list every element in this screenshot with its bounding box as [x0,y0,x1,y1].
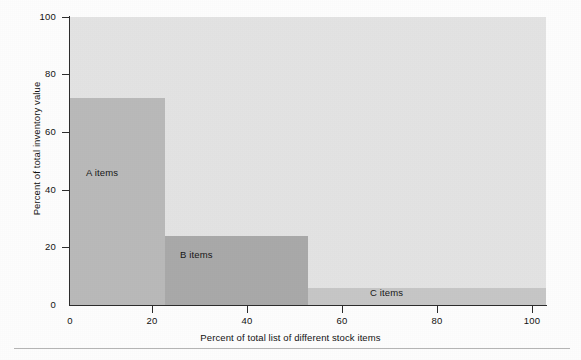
y-tick-40 [62,190,70,191]
bar-b-items [165,236,308,305]
bar-label-a-items: A items [86,167,118,178]
x-tick-20 [152,306,153,313]
y-tick-20 [62,247,70,248]
x-tick-100 [532,306,533,313]
bar-label-b-items: B items [180,249,213,260]
y-tick-100 [62,17,70,18]
x-ticklabel-80: 80 [422,315,452,326]
y-axis-title: Percent of total inventory value [31,39,42,259]
y-tick-80 [62,74,70,75]
x-ticklabel-40: 40 [232,315,262,326]
abc-inventory-chart-figure: A items B items C items 100 80 60 40 20 … [0,0,581,360]
x-ticklabel-60: 60 [327,315,357,326]
page-separator-rule [14,348,570,349]
bar-a-items [70,98,165,305]
y-ticklabel-0: 0 [28,299,56,310]
x-axis-title: Percent of total list of different stock… [0,332,581,343]
plot-area: A items B items C items [70,17,546,305]
x-tick-80 [437,306,438,313]
x-tick-40 [247,306,248,313]
bar-c-items [308,288,546,305]
x-ticklabel-20: 20 [137,315,167,326]
x-ticklabel-0: 0 [55,315,85,326]
x-axis-line [69,305,547,306]
x-ticklabel-100: 100 [517,315,547,326]
y-ticklabel-100: 100 [28,11,56,22]
bar-label-c-items: C items [370,287,403,298]
y-tick-60 [62,132,70,133]
y-axis-line [69,16,70,306]
x-tick-60 [342,306,343,313]
